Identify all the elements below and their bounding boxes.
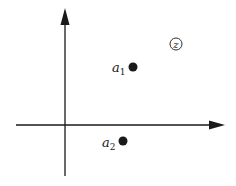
diagram-canvas: a1 a2 z bbox=[0, 0, 236, 186]
vertical-axis bbox=[61, 8, 70, 176]
region-label-z: z bbox=[172, 39, 179, 50]
point-label-a2: a2 bbox=[102, 135, 116, 152]
arrow-up-icon bbox=[61, 8, 70, 25]
point-marker-a2 bbox=[119, 137, 128, 146]
circled-z-marker: z bbox=[170, 38, 182, 50]
point-label-a1: a1 bbox=[112, 60, 126, 77]
point-a2: a2 bbox=[102, 135, 128, 152]
horizontal-axis bbox=[16, 121, 225, 130]
point-a1: a1 bbox=[112, 60, 138, 77]
point-marker-a1 bbox=[129, 63, 138, 72]
arrow-right-icon bbox=[209, 121, 225, 130]
